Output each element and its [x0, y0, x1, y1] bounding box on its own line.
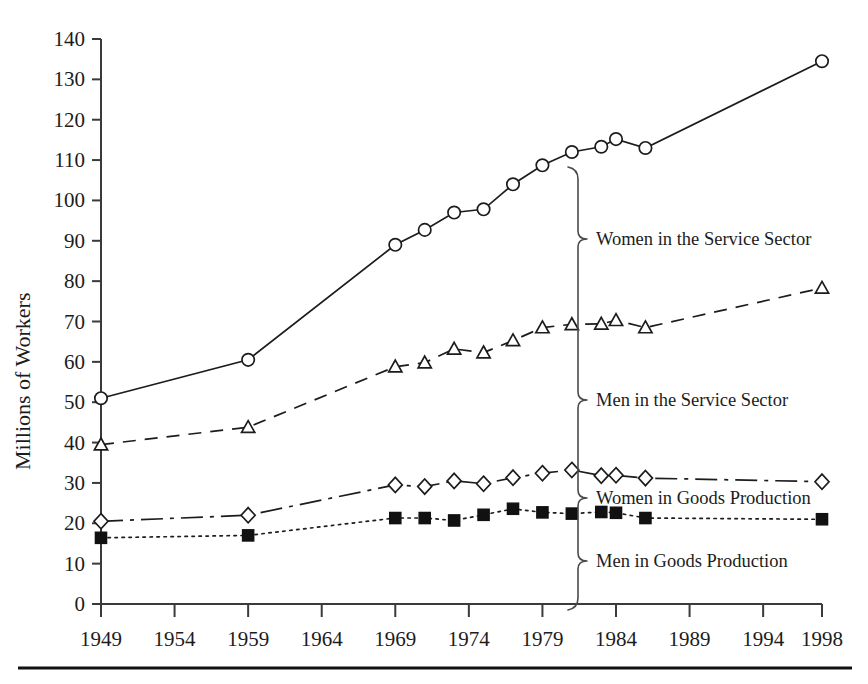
y-axis-title: Millions of Workers [10, 293, 35, 470]
y-tick-label: 10 [64, 552, 85, 576]
series-label-women-service: Women in the Service Sector [596, 229, 811, 249]
data-point-marker [507, 178, 519, 190]
data-point-marker [816, 55, 828, 67]
data-point-marker [390, 512, 401, 523]
y-tick-label: 30 [64, 471, 85, 495]
series-label-women-goods: Women in Goods Production [596, 488, 811, 508]
x-tick-label: 1979 [521, 627, 563, 651]
data-point-marker [243, 530, 254, 541]
data-point-marker [640, 512, 651, 523]
data-point-marker [537, 507, 548, 518]
data-point-marker [95, 392, 107, 404]
data-point-marker [816, 514, 827, 525]
data-point-marker [536, 159, 548, 171]
x-tick-label: 1974 [448, 627, 491, 651]
data-point-marker [610, 507, 621, 518]
data-point-marker [596, 506, 607, 517]
chart-figure: 0102030405060708090100110120130140 19491… [0, 0, 868, 684]
data-point-marker [477, 203, 489, 215]
data-point-marker [242, 354, 254, 366]
data-point-marker [419, 512, 430, 523]
x-tick-label: 1984 [595, 627, 638, 651]
data-point-marker [639, 142, 651, 154]
data-point-marker [566, 508, 577, 519]
data-point-marker [419, 224, 431, 236]
y-tick-label: 40 [64, 431, 85, 455]
y-tick-label: 70 [64, 310, 85, 334]
data-point-marker [478, 509, 489, 520]
data-point-marker [95, 532, 106, 543]
y-axis-title-text: Millions of Workers [10, 293, 35, 470]
x-tick-label: 1949 [80, 627, 122, 651]
x-tick-label: 1964 [301, 627, 344, 651]
data-point-marker [449, 515, 460, 526]
x-tick-label: 1994 [742, 627, 785, 651]
data-point-marker [595, 141, 607, 153]
data-point-marker [448, 206, 460, 218]
y-tick-label: 120 [54, 108, 86, 132]
y-tick-label: 130 [54, 67, 86, 91]
series-label-men-goods: Men in Goods Production [596, 551, 788, 571]
y-tick-label: 20 [64, 511, 85, 535]
y-tick-label: 80 [64, 269, 85, 293]
x-tick-label: 1959 [227, 627, 269, 651]
y-tick-label: 140 [54, 27, 86, 51]
x-tick-label: 1998 [801, 627, 843, 651]
data-point-marker [389, 239, 401, 251]
y-tick-label: 0 [75, 592, 86, 616]
data-point-marker [610, 133, 622, 145]
x-tick-label: 1954 [154, 627, 197, 651]
y-tick-label: 110 [54, 148, 85, 172]
y-tick-label: 100 [54, 188, 86, 212]
data-point-marker [566, 146, 578, 158]
data-point-marker [507, 503, 518, 514]
x-tick-label: 1969 [374, 627, 416, 651]
y-tick-label: 60 [64, 350, 85, 374]
y-tick-label: 50 [64, 390, 85, 414]
x-tick-label: 1989 [669, 627, 711, 651]
line-chart: 0102030405060708090100110120130140 19491… [0, 0, 868, 684]
series-label-men-service: Men in the Service Sector [596, 390, 788, 410]
y-tick-label: 90 [64, 229, 85, 253]
